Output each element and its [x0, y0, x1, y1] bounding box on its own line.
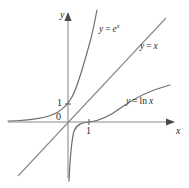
math-figure-exponential-logarithm: y x 1 0 1 y=ex y=x y=lnx — [0, 0, 189, 188]
y-axis-tick-label-1: 1 — [57, 98, 62, 108]
curve-label-logarithm-argument: x — [149, 96, 153, 106]
curve-label-logarithm-function: ln — [140, 96, 147, 106]
curve-label-logarithm-op: = — [132, 96, 137, 106]
origin-label: 0 — [56, 112, 61, 122]
x-axis-label: x — [176, 126, 180, 136]
curve-label-logarithm: y=lnx — [126, 97, 153, 107]
curve-label-logarithm-lhs: y — [126, 96, 130, 106]
curve-label-identity: y=x — [140, 42, 158, 52]
curve-logarithm — [69, 85, 170, 181]
curve-label-exponential-lhs: y — [99, 24, 103, 34]
curve-label-identity-op: = — [146, 41, 151, 51]
plot-canvas — [0, 0, 189, 188]
x-axis-tick-label-1: 1 — [86, 126, 91, 136]
x-axis-arrowhead — [166, 118, 175, 125]
y-axis-arrowhead — [64, 12, 71, 21]
curve-label-exponential: y=ex — [99, 25, 120, 35]
curve-label-exponential-exponent: x — [117, 22, 120, 29]
curve-label-identity-lhs: y — [140, 41, 144, 51]
curve-label-exponential-op: = — [105, 24, 110, 34]
curve-label-identity-rhs: x — [154, 41, 158, 51]
curve-exponential — [8, 10, 97, 121]
y-axis-label: y — [60, 10, 64, 20]
